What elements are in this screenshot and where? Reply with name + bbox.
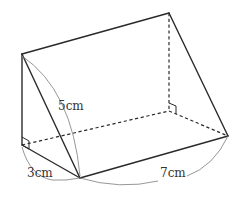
right-angle-marks bbox=[22, 103, 176, 149]
front-hypotenuse-edge bbox=[22, 54, 80, 178]
bottom-front-length-edge bbox=[80, 136, 228, 178]
back-base-hidden-edge bbox=[169, 111, 228, 136]
visible-edges bbox=[22, 13, 228, 178]
length-label: 7cm bbox=[160, 167, 186, 180]
base-width-label: 3cm bbox=[27, 167, 53, 180]
top-ridge-edge bbox=[22, 13, 169, 54]
length-dimension-arc-left bbox=[80, 178, 158, 185]
right-angle-mark-back bbox=[169, 103, 176, 114]
back-hypotenuse-edge bbox=[169, 13, 228, 136]
hidden-edges bbox=[22, 13, 228, 145]
bottom-back-hidden-edge bbox=[22, 111, 169, 145]
height-label: 5cm bbox=[58, 100, 84, 113]
prism-diagram: 5cm 3cm 7cm bbox=[0, 0, 244, 197]
right-angle-mark-front bbox=[22, 137, 29, 149]
